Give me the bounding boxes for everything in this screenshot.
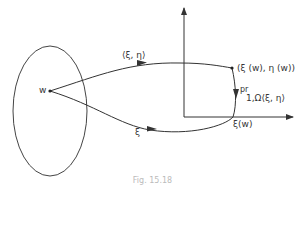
lower-map-label: ξ [135, 128, 140, 137]
domain-ellipse [13, 46, 87, 176]
upper-map-label: ⟨ξ, η⟩ [122, 51, 145, 60]
xi-w-label: ξ(w) [233, 120, 252, 129]
figure-caption: Fig. 15.18 [0, 176, 305, 185]
point-w-dot [48, 89, 51, 92]
lower-map-curve [50, 91, 233, 132]
point-w-label: w [39, 86, 46, 95]
projection-arrow [233, 89, 239, 99]
image-point-label: (ξ (w), η (w)) [237, 64, 295, 73]
image-point-dot [230, 66, 233, 69]
projection-subscript: 1,Ω⟨ξ, η⟩ [246, 94, 285, 103]
